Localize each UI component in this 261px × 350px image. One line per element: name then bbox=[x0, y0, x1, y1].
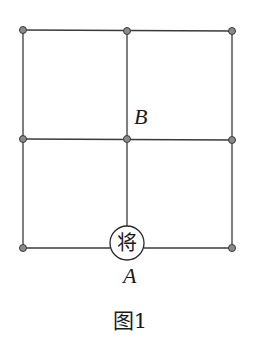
piece-char: 将 bbox=[117, 231, 137, 255]
grid-node bbox=[20, 136, 27, 143]
grid-node bbox=[20, 27, 27, 34]
grid-node bbox=[229, 137, 236, 144]
grid-diagram: B 将 A 图1 bbox=[0, 0, 261, 350]
figure-caption: 图1 bbox=[113, 309, 147, 333]
point-b-label: B bbox=[134, 104, 147, 129]
grid-node bbox=[229, 28, 236, 35]
grid-node bbox=[124, 28, 131, 35]
grid-node bbox=[229, 245, 236, 252]
grid-node-b bbox=[124, 136, 131, 143]
grid-node bbox=[20, 245, 27, 252]
chess-piece-general: 将 bbox=[110, 226, 144, 260]
point-a-label: A bbox=[121, 263, 137, 288]
